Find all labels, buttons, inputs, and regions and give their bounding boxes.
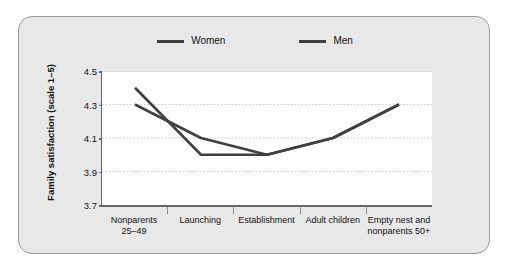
legend-line-icon-women: [157, 40, 184, 43]
legend-label-women: Women: [191, 36, 225, 46]
x-axis-label-establishment: Establishment: [233, 207, 299, 243]
y-tick-label-4-3: 4.3: [71, 101, 97, 111]
gridlines: [102, 71, 432, 172]
x-axis-label-adult-children: Adult children: [300, 207, 366, 243]
x-axis-separator: [167, 207, 168, 214]
x-axis-label-nonparents-25-49: Nonparents 25–49: [101, 207, 167, 243]
legend-label-men: Men: [333, 36, 352, 46]
legend-line-icon-men: [299, 40, 326, 43]
chart-legend: Women Men: [19, 33, 491, 49]
x-cat-line1: Nonparents: [101, 215, 167, 226]
x-axis-separator: [366, 207, 367, 214]
chart-plot-svg: [102, 71, 432, 205]
y-tick-label-4-5: 4.5: [71, 67, 97, 77]
y-axis-tick-labels: 4.5 4.3 4.1 3.9 3.7: [67, 71, 97, 205]
y-tick-label-3-7: 3.7: [71, 201, 97, 211]
legend-entry-men: Men: [299, 36, 352, 46]
x-axis-category-labels: Nonparents 25–49 Launching Establishment…: [101, 207, 432, 243]
y-tick-label-4-1: 4.1: [71, 134, 97, 144]
x-axis-label-empty-nest: Empty nest and nonparents 50+: [366, 207, 432, 243]
series-line-women: [135, 88, 399, 155]
x-cat-line2: 25–49: [101, 226, 167, 237]
legend-entry-women: Women: [157, 36, 225, 46]
x-axis-separator: [233, 207, 234, 214]
plot-area: [101, 71, 432, 205]
x-cat-line1: Empty nest and: [366, 215, 432, 226]
x-axis-separator: [300, 207, 301, 214]
figure-card: Women Men Family satisfaction (scale 1–5…: [18, 16, 490, 254]
series-lines: [135, 88, 399, 155]
x-axis-label-launching: Launching: [167, 207, 233, 243]
y-tick-label-3-9: 3.9: [71, 168, 97, 178]
x-cat-line1: Establishment: [233, 215, 299, 226]
x-cat-line1: Adult children: [300, 215, 366, 226]
x-cat-line2: nonparents 50+: [366, 226, 432, 237]
y-axis-title: Family satisfaction (scale 1–5): [45, 58, 56, 208]
x-cat-line1: Launching: [167, 215, 233, 226]
